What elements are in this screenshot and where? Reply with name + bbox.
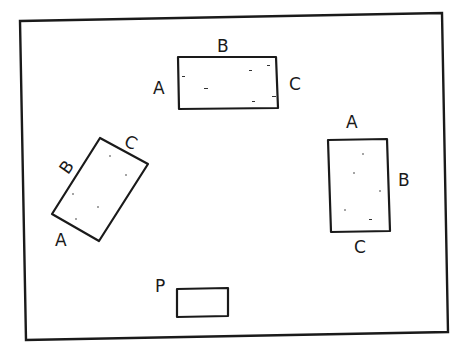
label-right-a: A bbox=[346, 112, 358, 132]
diagram-canvas: A B C A B C A B C P bbox=[0, 0, 454, 355]
rectangle-left-tilted: A B C bbox=[52, 131, 148, 250]
label-p: P bbox=[155, 276, 165, 296]
label-top-b: B bbox=[217, 36, 229, 56]
label-top-c: C bbox=[289, 74, 301, 94]
rectangle-p: P bbox=[155, 276, 228, 317]
label-top-a: A bbox=[153, 78, 165, 98]
label-left-a: A bbox=[55, 230, 67, 250]
label-left-b: B bbox=[55, 156, 78, 177]
rectangle-top: A B C bbox=[153, 36, 301, 109]
outer-frame bbox=[20, 13, 448, 340]
rectangle-right: A B C bbox=[328, 112, 410, 257]
label-right-c: C bbox=[354, 237, 366, 257]
label-right-b: B bbox=[398, 170, 410, 190]
